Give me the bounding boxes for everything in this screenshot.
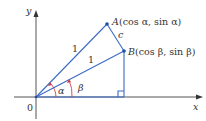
point-A-label: A (111, 16, 119, 27)
angle-beta-label: β (77, 82, 84, 93)
right-angle-marker (118, 91, 124, 97)
point-A-coords: (cos α, sin α) (119, 16, 181, 27)
segment-OA-label: 1 (72, 43, 78, 54)
point-B-coords: (cos β, sin β) (135, 46, 195, 57)
arc-beta (69, 80, 72, 97)
diagram-canvas: y x 0 A (cos α, sin α) B (cos β, sin β) … (0, 0, 206, 121)
point-B-label: B (127, 46, 135, 57)
point-A (105, 22, 109, 26)
y-axis-label: y (25, 5, 32, 16)
point-B (122, 49, 126, 53)
origin-label: 0 (27, 102, 33, 113)
point-origin (35, 96, 38, 99)
x-axis-arrow-icon (196, 95, 203, 100)
angle-alpha-label: α (58, 85, 65, 96)
segment-OB-label: 1 (88, 54, 94, 65)
segment-AB-label: c (118, 29, 124, 40)
y-axis-arrow-icon (34, 10, 39, 17)
x-axis-label: x (193, 101, 199, 112)
